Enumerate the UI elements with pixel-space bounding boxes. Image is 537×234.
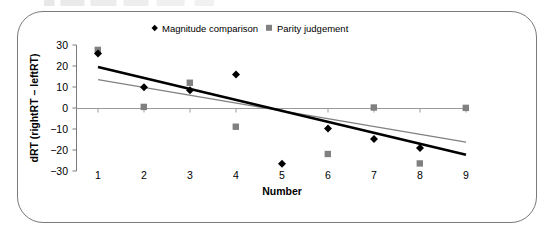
legend-marker-diamond (152, 25, 158, 31)
y-tick-label: −20 (50, 144, 68, 156)
data-point-magnitude (370, 135, 378, 143)
y-tick-label: 20 (56, 60, 68, 72)
y-tick-label: 0 (62, 102, 68, 114)
x-tick-label: 1 (95, 169, 101, 181)
data-point-magnitude (324, 124, 332, 132)
x-tick-label: 9 (463, 169, 469, 181)
series-parity-judgement (95, 47, 469, 167)
x-tick-label: 3 (187, 169, 193, 181)
y-axis-tick-labels: 30 20 10 0 −10 −20 −30 (50, 39, 68, 177)
y-axis-title: dRT (rightRT – leftRT) (28, 53, 40, 162)
trendline-magnitude (98, 67, 466, 155)
x-axis-tick-labels: 1 2 3 4 5 6 7 8 9 (95, 169, 469, 181)
x-tick-label: 6 (325, 169, 331, 181)
legend-marker-square (266, 25, 272, 31)
data-point-parity (371, 104, 377, 110)
x-tick-label: 2 (141, 169, 147, 181)
x-tick-label: 4 (233, 169, 239, 181)
data-point-parity (187, 80, 193, 86)
data-point-parity (141, 104, 147, 110)
y-tick-label: −10 (50, 123, 68, 135)
data-point-magnitude (278, 160, 286, 168)
data-point-parity (325, 151, 331, 157)
x-tick-label: 7 (371, 169, 377, 181)
data-point-parity (417, 160, 423, 166)
x-tick-label: 5 (279, 169, 285, 181)
x-tick-label: 8 (417, 169, 423, 181)
legend-label-parity: Parity judgement (277, 23, 349, 34)
legend-label-magnitude: Magnitude comparison (162, 23, 258, 34)
x-axis-title: Number (262, 185, 302, 197)
data-point-magnitude (140, 83, 148, 91)
data-point-parity (463, 105, 469, 111)
y-tick-label: −30 (50, 165, 68, 177)
y-tick-label: 30 (56, 39, 68, 51)
chart-legend: Magnitude comparison Parity judgement (152, 23, 349, 34)
data-point-parity (233, 124, 239, 130)
data-point-magnitude (232, 71, 240, 79)
y-tick-label: 10 (56, 81, 68, 93)
y-axis-ticks (73, 45, 77, 171)
